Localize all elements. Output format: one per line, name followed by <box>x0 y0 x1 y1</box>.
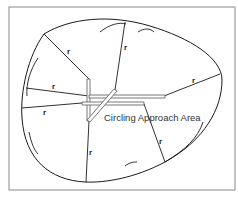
runway-horizontal-upper <box>89 95 165 98</box>
diagram-title: Circling Approach Area <box>104 112 201 123</box>
radius-arc <box>100 23 126 32</box>
radius-arc <box>27 58 38 96</box>
radius-label: r <box>43 108 46 117</box>
radius-label: r <box>89 148 92 157</box>
runway-horizontal-lower <box>82 102 144 105</box>
radius-line <box>44 34 89 79</box>
radius-arc <box>138 29 154 32</box>
radius-line <box>115 22 125 90</box>
radius-arc <box>165 122 203 162</box>
radius-label: r <box>67 47 70 56</box>
radius-line <box>26 88 89 96</box>
radius-arc <box>125 162 137 166</box>
radius-label: r <box>124 43 127 52</box>
radius-label: r <box>192 76 195 85</box>
circling-approach-diagram: rrrrrrr Circling Approach Area <box>0 0 238 204</box>
runway-vertical <box>87 79 90 121</box>
radius-line <box>22 103 82 108</box>
radius-label: r <box>52 82 55 91</box>
figure-frame <box>9 7 235 190</box>
radius-label: r <box>159 137 162 146</box>
